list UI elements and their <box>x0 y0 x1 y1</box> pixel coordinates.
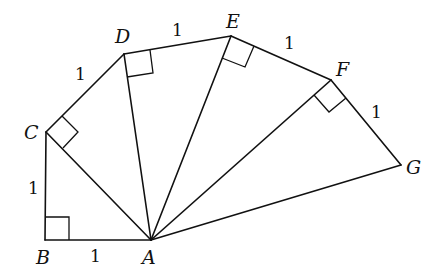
segment-AG <box>151 165 401 240</box>
point-label-F: F <box>335 58 350 80</box>
point-label-G: G <box>406 156 421 178</box>
segment-FG <box>331 80 401 165</box>
length-label-BC: 1 <box>28 178 39 198</box>
point-label-C: C <box>24 121 39 143</box>
segment-AC <box>46 132 151 240</box>
segment-AF <box>151 80 331 240</box>
point-label-A: A <box>140 246 156 268</box>
right-angle-marker-C <box>62 116 78 148</box>
point-label-B: B <box>35 246 50 268</box>
length-label-CD: 1 <box>75 64 86 84</box>
segment-AE <box>151 36 231 240</box>
length-label-EF: 1 <box>284 33 295 53</box>
length-label-DE: 1 <box>172 20 183 40</box>
spiral-diagram: B A C D E F G 1 1 1 1 1 1 <box>0 0 444 276</box>
segment-AD <box>124 54 151 240</box>
length-label-BA: 1 <box>90 246 101 266</box>
right-angle-marker-D <box>127 50 153 77</box>
right-angle-marker-E <box>222 46 254 67</box>
segment-EF <box>231 36 331 80</box>
segment-BC <box>45 132 46 240</box>
point-label-E: E <box>225 10 240 32</box>
right-angle-marker-B <box>45 217 69 240</box>
point-label-D: D <box>114 25 130 47</box>
right-angle-marker-F <box>314 95 346 112</box>
length-label-FG: 1 <box>371 102 382 122</box>
